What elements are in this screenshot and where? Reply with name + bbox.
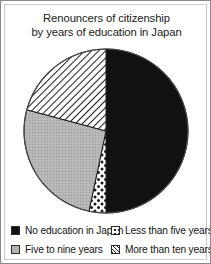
pie-chart-figure: Renouncers of citizenship by years of ed…: [0, 0, 211, 264]
legend-label-no-education-in-japan: No education in Japan: [25, 225, 123, 236]
legend-item-no-education-in-japan[interactable]: No education in Japan: [7, 221, 111, 240]
pie-chart-svg: [23, 48, 189, 214]
legend-item-more-than-ten-years[interactable]: More than ten years: [111, 240, 206, 259]
legend-item-five-to-nine-years[interactable]: Five to nine years: [7, 240, 111, 259]
solid-black-swatch-icon: [11, 226, 20, 235]
legend-label-more-than-ten-years: More than ten years: [125, 244, 211, 255]
dotted-swatch-icon: [111, 226, 120, 235]
legend-label-less-than-five-years: Less than five years: [125, 225, 211, 236]
chart-title-line-2: by years of education in Japan: [7, 25, 206, 39]
hatched-swatch-icon: [111, 245, 120, 254]
pie-slice-no-education-in-japan[interactable]: [106, 49, 188, 213]
pie-chart-plot-area: [23, 48, 189, 214]
chart-legend: No education in Japan Less than five yea…: [7, 221, 206, 259]
chart-title: Renouncers of citizenship by years of ed…: [7, 11, 206, 39]
chart-title-line-1: Renouncers of citizenship: [7, 11, 206, 25]
legend-row-1: No education in Japan Less than five yea…: [7, 221, 206, 240]
legend-row-2: Five to nine years More than ten years: [7, 240, 206, 259]
gray-swatch-icon: [11, 245, 20, 254]
legend-label-five-to-nine-years: Five to nine years: [25, 244, 103, 255]
legend-item-less-than-five-years[interactable]: Less than five years: [111, 221, 206, 240]
